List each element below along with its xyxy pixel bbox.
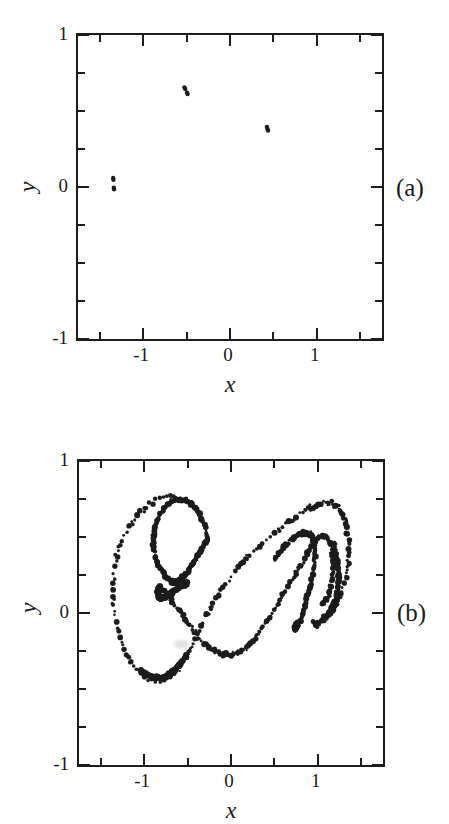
figure-root: -101-101 x y (a) -101-101 x y (b)	[0, 0, 449, 824]
x-tick-top	[317, 461, 319, 472]
y-tick-right	[371, 338, 382, 340]
panel-b: -101-101 x y (b)	[0, 412, 449, 824]
x-tick	[99, 332, 101, 339]
x-axis-title-a: x	[225, 372, 236, 396]
x-tick-top	[142, 35, 144, 46]
plot-a-frame	[76, 33, 384, 341]
y-tick	[79, 688, 86, 690]
x-tick	[273, 758, 275, 765]
y-tick-right	[375, 72, 382, 74]
x-ticklabel: 1	[311, 771, 321, 790]
y-tick-right	[372, 764, 383, 766]
y-tick	[78, 110, 85, 112]
y-tick	[79, 612, 90, 614]
y-axis-title-b: y	[16, 595, 40, 621]
y-tick-right	[376, 574, 383, 576]
x-tick	[272, 332, 274, 339]
x-tick	[186, 332, 188, 339]
y-tick	[78, 34, 89, 36]
panel-tag-a: (a)	[396, 175, 424, 200]
y-tick-right	[376, 536, 383, 538]
x-tick-top	[100, 461, 102, 468]
plot-b-inner	[79, 461, 383, 765]
y-tick-right	[375, 110, 382, 112]
y-tick	[78, 338, 89, 340]
y-tick	[78, 186, 89, 188]
x-tick-top	[316, 35, 318, 46]
x-tick-top	[229, 35, 231, 46]
x-ticklabel: -1	[134, 771, 150, 790]
y-tick	[78, 148, 85, 150]
y-tick	[79, 574, 86, 576]
x-tick	[142, 328, 144, 339]
plot-b-frame	[77, 459, 385, 767]
y-tick-right	[375, 148, 382, 150]
y-tick-right	[376, 498, 383, 500]
y-ticklabel: 1	[33, 450, 69, 469]
x-tick-top	[360, 461, 362, 468]
y-axis-title-a: y	[15, 174, 39, 200]
y-tick-right	[372, 612, 383, 614]
x-tick	[359, 332, 361, 339]
x-tick-top	[359, 35, 361, 42]
y-tick-right	[376, 650, 383, 652]
y-tick-right	[375, 262, 382, 264]
x-tick-top	[99, 35, 101, 42]
y-tick	[78, 262, 85, 264]
x-tick	[360, 758, 362, 765]
x-tick-top	[230, 461, 232, 472]
x-axis-title-b: x	[226, 798, 237, 822]
y-tick-right	[371, 34, 382, 36]
y-tick	[79, 764, 90, 766]
y-tick	[78, 224, 85, 226]
scan-smudge	[174, 640, 189, 649]
y-tick	[79, 650, 86, 652]
x-tick	[229, 328, 231, 339]
x-tick-top	[143, 461, 145, 472]
y-tick	[79, 726, 86, 728]
x-tick-top	[272, 35, 274, 42]
x-tick	[187, 758, 189, 765]
y-tick	[78, 72, 85, 74]
x-tick	[316, 328, 318, 339]
y-tick-right	[375, 224, 382, 226]
scatter-b-points	[79, 461, 383, 765]
y-tick	[79, 498, 86, 500]
x-ticklabel: 1	[310, 345, 320, 364]
x-tick	[230, 754, 232, 765]
x-ticklabel: 0	[223, 345, 233, 364]
x-ticklabel: -1	[133, 345, 149, 364]
x-tick	[100, 758, 102, 765]
y-tick-right	[372, 460, 383, 462]
plot-a-inner	[78, 35, 382, 339]
y-tick-right	[371, 186, 382, 188]
y-tick	[79, 536, 86, 538]
y-ticklabel: 1	[32, 24, 68, 43]
x-tick-top	[187, 461, 189, 468]
x-tick	[143, 754, 145, 765]
y-tick-right	[376, 688, 383, 690]
y-tick-right	[375, 300, 382, 302]
x-ticklabel: 0	[224, 771, 234, 790]
y-ticklabel: -1	[32, 328, 68, 347]
x-tick-top	[273, 461, 275, 468]
y-ticklabel: -1	[33, 754, 69, 773]
panel-a: -101-101 x y (a)	[0, 0, 449, 412]
y-tick	[78, 300, 85, 302]
y-tick-right	[376, 726, 383, 728]
x-tick	[317, 754, 319, 765]
y-tick	[79, 460, 90, 462]
scatter-a-points	[78, 35, 382, 339]
x-tick-top	[186, 35, 188, 42]
panel-tag-b: (b)	[397, 600, 426, 625]
